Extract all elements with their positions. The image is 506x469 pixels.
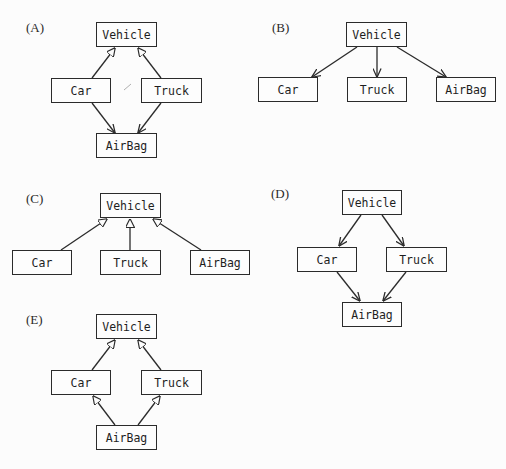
- edge-e-airbag-car: [93, 396, 115, 425]
- node-airbag: AirBag: [190, 250, 250, 275]
- edge-e-truck-vehicle: [138, 340, 161, 370]
- edge-c-airbag-vehicle: [153, 219, 201, 250]
- node-car: Car: [51, 78, 111, 103]
- panel-label-d: (D): [271, 186, 289, 202]
- node-car: Car: [51, 370, 111, 395]
- node-vehicle: Vehicle: [96, 22, 157, 47]
- node-vehicle: Vehicle: [346, 22, 407, 47]
- node-truck: Truck: [386, 247, 447, 272]
- edge-b-vehicle-airbag: [397, 47, 446, 77]
- edge-a-car-vehicle: [92, 48, 115, 78]
- node-airbag: AirBag: [436, 77, 496, 102]
- node-car: Car: [258, 77, 318, 102]
- node-vehicle: Vehicle: [100, 193, 161, 218]
- node-truck: Truck: [141, 78, 202, 103]
- edge-a-truck-airbag: [138, 103, 161, 133]
- node-vehicle: Vehicle: [342, 190, 402, 215]
- diagram-edges: [0, 0, 506, 469]
- panel-label-c: (C): [26, 191, 43, 207]
- node-vehicle: Vehicle: [96, 314, 157, 339]
- node-truck: Truck: [141, 370, 202, 395]
- edge-a-car-airbag: [92, 103, 115, 133]
- node-truck: Truck: [347, 77, 407, 102]
- edge-a-truck-vehicle: [138, 48, 161, 78]
- node-airbag: AirBag: [342, 302, 402, 327]
- edge-c-car-vehicle: [61, 219, 107, 250]
- node-car: Car: [12, 250, 72, 275]
- node-truck: Truck: [100, 250, 161, 275]
- edge-d-vehicle-car: [339, 215, 361, 246]
- edge-b-vehicle-car: [312, 47, 357, 77]
- node-airbag: AirBag: [96, 133, 157, 158]
- edge-e-airbag-truck: [138, 396, 160, 425]
- panel-label-b: (B): [272, 20, 289, 36]
- node-car: Car: [297, 247, 357, 272]
- panel-label-a: (A): [26, 20, 44, 36]
- node-airbag: AirBag: [96, 425, 157, 450]
- edge-d-truck-airbag: [383, 272, 406, 301]
- panel-label-e: (E): [26, 312, 43, 328]
- edge-d-car-airbag: [337, 272, 360, 301]
- edge-d-vehicle-truck: [382, 215, 404, 246]
- edge-e-car-vehicle: [92, 340, 115, 370]
